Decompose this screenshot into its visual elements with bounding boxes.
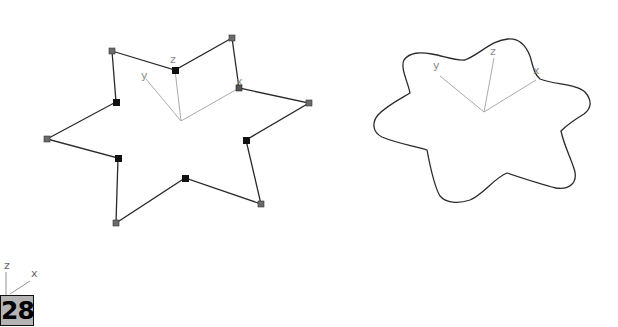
x-axis-line [484,80,536,112]
y-axis-line [440,76,484,112]
vertex-handle-inner[interactable] [236,85,242,91]
vertex-handle-inner[interactable] [115,155,122,162]
left-star-axis [146,70,239,121]
left-star-shape[interactable]: z y x [44,35,312,226]
x-axis-label: x [533,64,540,77]
right-star-axis [440,58,536,112]
view-axis-gizmo [6,272,30,296]
z-axis-label: z [170,53,176,66]
gizmo-x-line [10,281,30,294]
vertex-handles[interactable] [44,35,312,226]
vertex-handle-outer[interactable] [113,220,119,226]
z-axis-line [175,70,181,121]
gizmo-x-label: x [31,267,38,280]
vertex-handle-outer[interactable] [306,100,312,106]
y-axis-label: y [433,59,440,72]
vertex-handle-inner[interactable] [182,175,189,182]
gizmo-z-label: z [4,259,10,272]
y-axis-label: y [141,69,148,82]
vertex-handle-outer[interactable] [258,201,264,207]
z-axis-label: z [490,45,496,58]
viewport: z y x z y x z [0,0,618,327]
vertex-handle-outer[interactable] [229,35,235,41]
x-axis-line [181,88,239,121]
right-star-shape[interactable]: z y x [374,39,590,202]
vertex-handle-outer[interactable] [109,48,115,54]
step-number-badge: 28 [0,295,34,326]
vertex-handle-inner[interactable] [172,67,179,74]
vertex-handle-inner[interactable] [243,137,250,144]
vertex-handle-inner[interactable] [113,99,120,106]
y-axis-line [146,79,181,121]
z-axis-line [484,58,494,112]
vertex-handle-outer[interactable] [44,136,50,142]
left-star-outline[interactable] [47,38,309,223]
right-star-outline[interactable] [374,39,590,202]
